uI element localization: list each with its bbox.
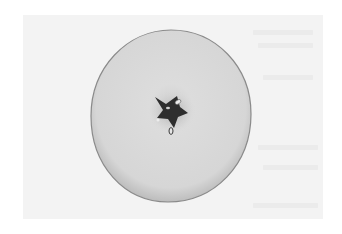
- seed: [166, 107, 170, 110]
- seed-highlight: [157, 119, 160, 122]
- seed: [169, 128, 173, 135]
- apple-cross-section-photo: [0, 0, 342, 234]
